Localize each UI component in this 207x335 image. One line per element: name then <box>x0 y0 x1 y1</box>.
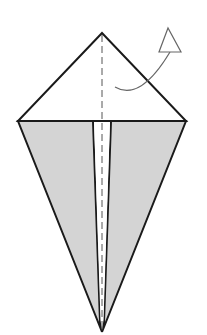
left-flap <box>18 121 102 332</box>
right-flap <box>102 121 186 332</box>
diagram-canvas <box>0 0 207 335</box>
origami-diagram <box>0 0 207 335</box>
fold-arrow-head-icon <box>159 28 181 52</box>
